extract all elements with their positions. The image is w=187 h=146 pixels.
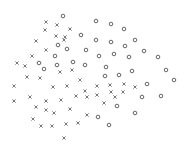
cross-marker — [68, 27, 71, 30]
circle-marker — [71, 60, 75, 64]
cross-marker — [59, 98, 62, 101]
cross-marker — [65, 84, 68, 87]
cross-marker — [95, 93, 98, 96]
cross-marker — [68, 107, 71, 110]
cross-marker — [38, 76, 41, 79]
cross-marker — [122, 82, 125, 85]
circle-marker — [37, 61, 41, 65]
circle-marker — [109, 40, 113, 44]
cross-marker — [43, 28, 46, 31]
cross-marker — [85, 95, 88, 98]
cross-marker — [83, 89, 86, 92]
cross-marker — [54, 34, 57, 37]
cross-marker — [62, 136, 65, 139]
cross-marker — [30, 54, 33, 57]
cross-marker — [52, 111, 55, 114]
circle-marker — [112, 52, 116, 56]
cross-marker — [109, 90, 112, 93]
cross-marker — [51, 85, 54, 88]
circle-marker — [172, 78, 176, 82]
cross-marker — [63, 35, 66, 38]
circle-marker — [133, 38, 137, 42]
circle-marker — [107, 123, 111, 127]
circle-marker — [130, 69, 134, 73]
cross-marker — [44, 48, 47, 51]
circle-marker — [156, 55, 160, 59]
cross-marker — [28, 95, 31, 98]
circle-marker — [103, 74, 107, 78]
circle-marker — [122, 27, 126, 31]
circle-marker — [145, 82, 149, 86]
circle-marker — [94, 38, 98, 42]
series-class-x — [12, 20, 136, 139]
cross-marker — [34, 39, 37, 42]
circle-marker — [123, 44, 127, 48]
circle-marker — [97, 54, 101, 58]
circle-marker — [94, 19, 98, 23]
circle-marker — [61, 14, 65, 18]
scatter-plot-canvas — [0, 0, 187, 146]
circle-marker — [127, 55, 131, 59]
cross-marker — [12, 99, 15, 102]
cross-marker — [108, 83, 111, 86]
circle-marker — [42, 67, 46, 71]
circle-marker — [164, 68, 168, 72]
cross-marker — [31, 117, 34, 120]
cross-marker — [102, 101, 105, 104]
cross-marker — [12, 84, 15, 87]
circle-marker — [84, 48, 88, 52]
cross-marker — [62, 38, 65, 41]
cross-marker — [95, 84, 98, 87]
circle-marker — [55, 63, 59, 67]
cross-marker — [15, 61, 18, 64]
circle-marker — [133, 111, 137, 115]
cross-marker — [25, 75, 28, 78]
cross-marker — [70, 68, 73, 71]
cross-marker — [34, 105, 37, 108]
cross-marker — [23, 64, 26, 67]
circle-marker — [142, 49, 146, 53]
series-class-o — [37, 14, 176, 127]
circle-marker — [56, 43, 60, 47]
cross-marker — [58, 70, 61, 73]
cross-marker — [78, 78, 81, 81]
scatter-plot — [0, 0, 187, 146]
circle-marker — [79, 33, 83, 37]
cross-marker — [64, 122, 67, 125]
cross-marker — [44, 99, 47, 102]
cross-marker — [74, 94, 77, 97]
circle-marker — [115, 104, 119, 108]
circle-marker — [159, 94, 163, 98]
cross-marker — [85, 113, 88, 116]
circle-marker — [140, 95, 144, 99]
cross-marker — [121, 90, 124, 93]
cross-marker — [133, 85, 136, 88]
cross-marker — [44, 20, 47, 23]
circle-marker — [109, 22, 113, 26]
circle-marker — [117, 73, 121, 77]
cross-marker — [50, 124, 53, 127]
circle-marker — [104, 65, 108, 69]
cross-marker — [55, 23, 58, 26]
circle-marker — [65, 47, 69, 51]
circle-marker — [83, 63, 87, 67]
circle-marker — [53, 54, 57, 58]
cross-marker — [76, 121, 79, 124]
cross-marker — [113, 95, 116, 98]
cross-marker — [44, 108, 47, 111]
circle-marker — [96, 115, 100, 119]
cross-marker — [39, 124, 42, 127]
